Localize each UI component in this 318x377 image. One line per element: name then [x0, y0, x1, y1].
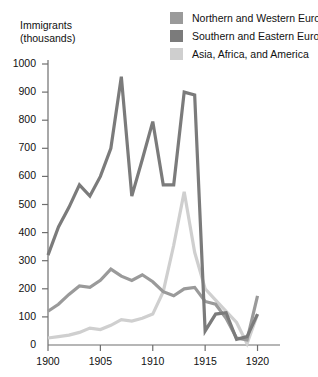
y-tick-label: 400: [0, 226, 36, 238]
x-tick-label: 1905: [80, 355, 120, 367]
y-tick-label: 1000: [0, 57, 36, 69]
series-line-northern-and-western-europe: [48, 269, 258, 340]
y-tick-label: 0: [0, 338, 36, 350]
x-tick-label: 1900: [28, 355, 68, 367]
y-tick-label: 900: [0, 85, 36, 97]
y-tick-label: 600: [0, 169, 36, 181]
y-tick-label: 800: [0, 113, 36, 125]
chart-figure: Immigrants (thousands) Northern and West…: [0, 0, 318, 377]
plot-area: 0100200300400500600700800900100019001905…: [0, 0, 318, 377]
x-tick-label: 1910: [133, 355, 173, 367]
y-tick-label: 200: [0, 282, 36, 294]
x-tick-label: 1915: [185, 355, 225, 367]
y-tick-label: 300: [0, 254, 36, 266]
y-tick-label: 100: [0, 310, 36, 322]
series-line-southern-and-eastern-europe: [48, 77, 258, 340]
chart-svg: [0, 0, 318, 377]
y-tick-label: 500: [0, 198, 36, 210]
x-tick-label: 1920: [238, 355, 278, 367]
y-tick-label: 700: [0, 141, 36, 153]
